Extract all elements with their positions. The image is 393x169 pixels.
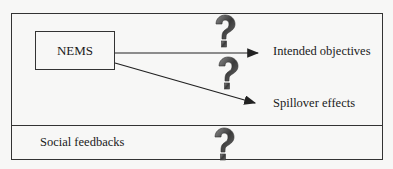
social-feedbacks-label: Social feedbacks xyxy=(40,135,124,150)
nems-node: NEMS xyxy=(35,31,115,70)
nems-label: NEMS xyxy=(57,43,93,59)
intended-objectives-label: Intended objectives xyxy=(273,44,371,59)
question-mark-icon xyxy=(216,15,235,47)
spillover-effects-label: Spillover effects xyxy=(273,96,355,111)
question-mark-icon xyxy=(219,57,238,89)
question-mark-icon xyxy=(215,128,234,160)
